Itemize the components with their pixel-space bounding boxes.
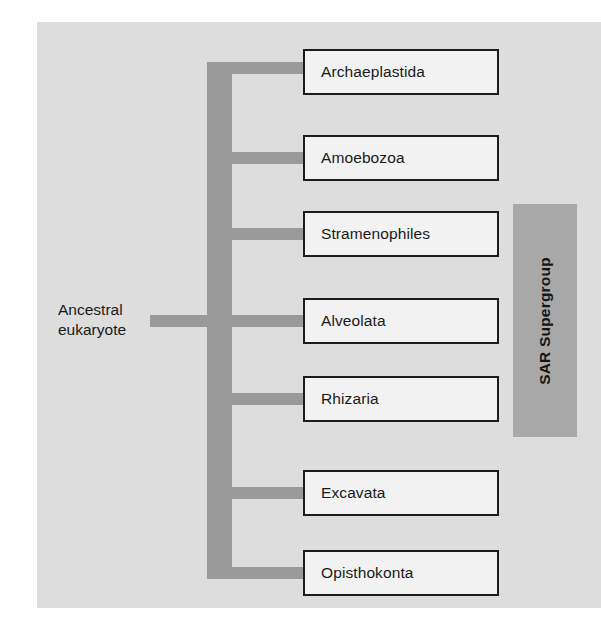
branch-connector-alveolata bbox=[207, 315, 307, 327]
taxon-label-excavata: Excavata bbox=[305, 485, 386, 501]
branch-connector-rhizaria bbox=[219, 393, 307, 405]
taxon-box-stramenophiles[interactable]: Stramenophiles bbox=[303, 211, 499, 257]
taxon-box-amoebozoa[interactable]: Amoebozoa bbox=[303, 135, 499, 181]
ancestral-eukaryote-label: Ancestral eukaryote bbox=[58, 300, 168, 340]
branch-connector-excavata bbox=[219, 487, 307, 499]
taxon-label-archaeplastida: Archaeplastida bbox=[305, 64, 425, 80]
branch-connector-amoebozoa bbox=[219, 152, 307, 164]
sar-supergroup-bracket: SAR Supergroup bbox=[513, 204, 577, 437]
taxon-box-alveolata[interactable]: Alveolata bbox=[303, 298, 499, 344]
taxon-label-stramenophiles: Stramenophiles bbox=[305, 226, 430, 242]
branch-connector-opisthokonta bbox=[207, 567, 307, 579]
diagram-canvas: Ancestral eukaryote Archaeplastida Amoeb… bbox=[0, 0, 601, 635]
branch-connector-archaeplastida bbox=[207, 62, 307, 74]
taxon-label-rhizaria: Rhizaria bbox=[305, 391, 379, 407]
branch-connector-stramenophiles bbox=[219, 228, 307, 240]
taxon-label-opisthokonta: Opisthokonta bbox=[305, 565, 414, 581]
taxon-box-archaeplastida[interactable]: Archaeplastida bbox=[303, 49, 499, 95]
taxon-label-alveolata: Alveolata bbox=[305, 313, 386, 329]
sar-supergroup-label: SAR Supergroup bbox=[536, 257, 554, 385]
taxon-box-opisthokonta[interactable]: Opisthokonta bbox=[303, 550, 499, 596]
taxon-label-amoebozoa: Amoebozoa bbox=[305, 150, 405, 166]
taxon-box-excavata[interactable]: Excavata bbox=[303, 470, 499, 516]
taxon-box-rhizaria[interactable]: Rhizaria bbox=[303, 376, 499, 422]
